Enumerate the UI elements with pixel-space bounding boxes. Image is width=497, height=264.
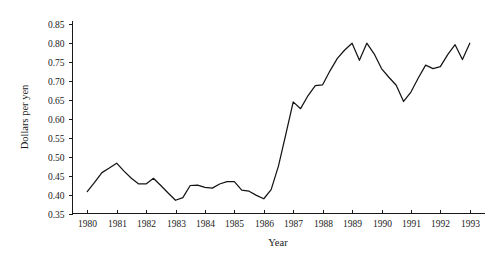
y-tick-label: 0.75 [48,58,65,68]
x-axis-title: Year [268,237,288,248]
y-tick-label: 0.35 [48,210,65,220]
y-axis-title: Dollars per yen [19,84,30,149]
x-tick-label: 1988 [314,219,333,229]
x-tick-label: 1993 [461,219,480,229]
y-tick-label: 0.65 [48,96,65,106]
chart-figure: 0.350.400.450.500.550.600.650.700.750.80… [0,0,497,264]
x-tick-label: 1989 [343,219,362,229]
x-tick-label: 1990 [373,219,392,229]
x-tick-label: 1986 [255,219,274,229]
x-axis-ticks [88,210,471,214]
x-tick-label: 1984 [196,219,215,229]
y-tick-label: 0.70 [48,77,65,87]
y-tick-label: 0.60 [48,115,65,125]
x-tick-label: 1991 [402,219,421,229]
x-axis-tick-labels: 1980198119821983198419851986198719881989… [78,219,480,229]
y-axis-ticks [69,25,73,215]
x-tick-label: 1980 [78,219,97,229]
x-tick-label: 1982 [137,219,156,229]
x-tick-label: 1981 [108,219,127,229]
x-tick-label: 1985 [225,219,244,229]
x-tick-label: 1992 [431,219,450,229]
y-tick-label: 0.85 [48,20,65,30]
y-axis-group: 0.350.400.450.500.550.600.650.700.750.80… [48,20,73,220]
x-tick-label: 1987 [284,219,303,229]
x-tick-label: 1983 [167,219,186,229]
y-tick-label: 0.45 [48,172,65,182]
x-axis-group: 1980198119821983198419851986198719881989… [73,210,485,229]
y-tick-label: 0.80 [48,39,65,49]
line-chart: 0.350.400.450.500.550.600.650.700.750.80… [0,0,497,264]
y-axis-tick-labels: 0.350.400.450.500.550.600.650.700.750.80… [48,20,65,220]
y-tick-label: 0.55 [48,134,65,144]
data-line-dollars-per-yen [87,43,470,200]
y-tick-label: 0.50 [48,153,65,163]
plot-series-group [87,43,470,200]
y-tick-label: 0.40 [48,191,65,201]
